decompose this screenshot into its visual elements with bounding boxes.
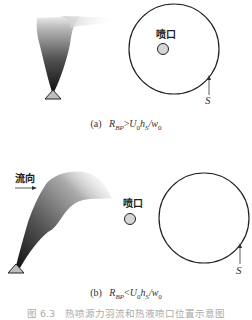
s-label-a: S <box>205 94 211 106</box>
caption-a: (a) RBP>U0hS/w0 <box>0 118 252 132</box>
flow-direction-label: 流向 <box>15 172 35 184</box>
figure-caption: 图 6.3 热喷源力羽流和热液喷口位置示意图 <box>0 306 252 320</box>
caption-a-w: /w <box>149 118 158 129</box>
flow-arrow-head-icon <box>32 186 37 190</box>
caption-a-sub3: 0 <box>158 124 162 132</box>
source-triangle-a <box>45 90 61 99</box>
caption-b-sub3: 0 <box>158 293 162 301</box>
caption-a-prefix: (a) <box>90 118 101 129</box>
caption-a-lhs-sub: BP <box>115 124 124 132</box>
nozzle-circle-b <box>125 214 136 225</box>
caption-a-rhs: U <box>129 118 136 129</box>
plume-b <box>16 172 112 269</box>
nozzle-circle-a <box>158 44 169 55</box>
boundary-circle-a <box>129 4 219 94</box>
caption-b-w: /w <box>149 287 158 298</box>
caption-b: (b) RBP<U0hS/w0 <box>0 287 252 301</box>
source-triangle-b <box>8 264 24 273</box>
caption-b-lhs-sub: BP <box>115 293 124 301</box>
boundary-circle-b <box>159 173 249 263</box>
nozzle-label-b: 喷口 <box>123 197 143 209</box>
caption-b-prefix: (b) <box>90 287 102 298</box>
plume-a <box>37 16 80 92</box>
s-label-b: S <box>236 264 242 276</box>
panel-a: 喷口 S <box>37 4 219 106</box>
panel-b: 流向 喷口 S <box>8 172 249 277</box>
nozzle-label-a: 喷口 <box>156 28 176 40</box>
caption-b-rhs: U <box>130 287 137 298</box>
